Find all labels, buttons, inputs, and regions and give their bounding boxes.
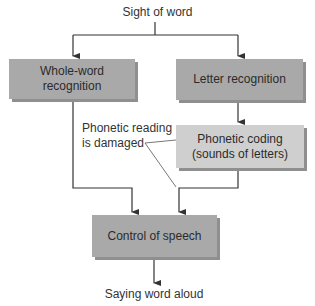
whole-word-recognition-text: Whole-word recognition: [9, 64, 135, 94]
annotation-line-2: is damaged: [82, 136, 172, 151]
annotation-line-1: Phonetic reading: [82, 121, 172, 136]
phonetic-coding-subtext: (sounds of letters): [192, 147, 288, 162]
sight-of-word-label: Sight of word: [0, 5, 315, 20]
phonetic-damaged-annotation: Phonetic reading is damaged: [82, 121, 172, 151]
control-of-speech-text: Control of speech: [107, 229, 201, 244]
letter-recognition-node: Letter recognition: [176, 59, 303, 100]
control-of-speech-node: Control of speech: [92, 215, 217, 257]
phonetic-coding-node: Phonetic coding (sounds of letters): [176, 125, 304, 168]
letter-recognition-text: Letter recognition: [193, 72, 286, 87]
saying-word-aloud-label: Saying word aloud: [0, 287, 308, 302]
phonetic-coding-text: Phonetic coding: [197, 132, 282, 147]
whole-word-recognition-node: Whole-word recognition: [9, 59, 135, 99]
